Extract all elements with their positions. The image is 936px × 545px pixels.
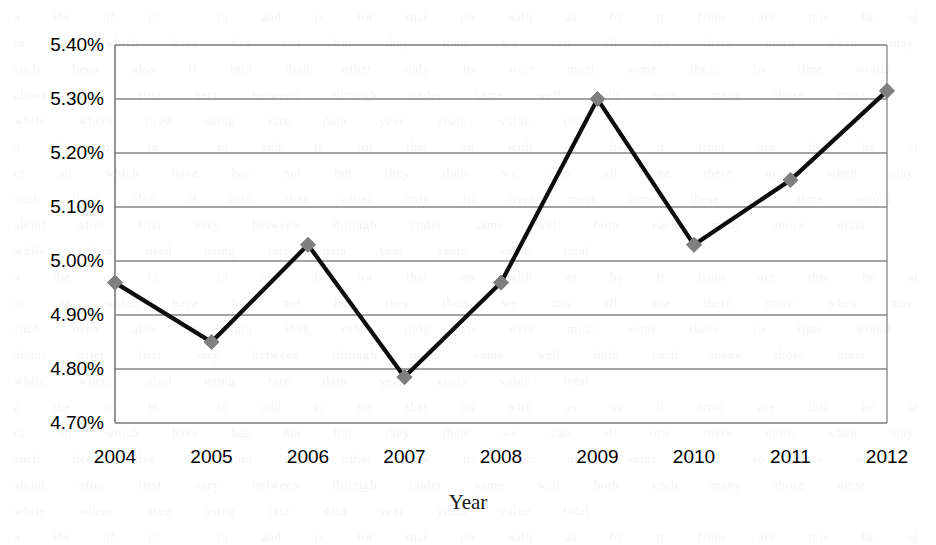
- x-axis-tick-label: 2007: [383, 446, 425, 468]
- y-axis-tick-label: 4.80%: [18, 358, 104, 380]
- y-axis-tick-labels: 5.40%5.30%5.20%5.10%5.00%4.90%4.80%4.70%: [16, 0, 104, 545]
- x-axis-title: Year: [0, 490, 936, 515]
- x-axis-tick-label: 2005: [190, 446, 232, 468]
- y-axis-tick-label: 4.70%: [18, 412, 104, 434]
- y-axis-tick-label: 5.40%: [18, 34, 104, 56]
- x-axis-tick-label: 2008: [480, 446, 522, 468]
- x-axis-tick-label: 2012: [866, 446, 908, 468]
- x-axis-tick-label: 2006: [287, 446, 329, 468]
- gridlines-group: [115, 99, 887, 369]
- line-chart-figure: a the of in . to and is for that on with…: [0, 0, 936, 545]
- plot-area-border: [115, 45, 887, 423]
- y-axis-tick-label: 4.90%: [18, 304, 104, 326]
- x-axis-tick-label: 2011: [770, 446, 811, 468]
- y-axis-tick-label: 5.10%: [18, 196, 104, 218]
- x-axis-tick-label: 2010: [673, 446, 715, 468]
- y-axis-tick-label: 5.00%: [18, 250, 104, 272]
- y-axis-tick-label: 5.20%: [18, 142, 104, 164]
- series-markers: [107, 83, 894, 384]
- series-line: [115, 91, 887, 377]
- data-line: [115, 91, 887, 377]
- x-axis-tick-label: 2009: [576, 446, 618, 468]
- x-axis-tick-label: 2004: [94, 446, 136, 468]
- y-axis-tick-label: 5.30%: [18, 88, 104, 110]
